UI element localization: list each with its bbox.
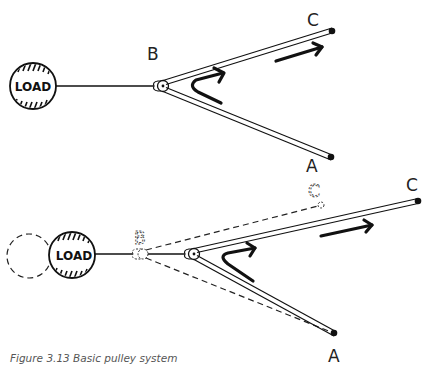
- pulley-b: [185, 249, 200, 260]
- end-label-a: A: [328, 346, 340, 366]
- load-weight: LOAD: [10, 63, 56, 110]
- u-turn-arrow-icon: [192, 68, 224, 103]
- previous-rope-to-c: [146, 206, 318, 250]
- previous-load-position: [7, 234, 51, 278]
- end-label-a: A: [306, 156, 318, 176]
- pulley-label-b: B: [147, 44, 159, 64]
- u-turn-arrow-icon: [223, 243, 255, 281]
- bottom-panel: LOAD B C C A: [7, 175, 421, 366]
- figure-caption: Figure 3.13 Basic pulley system: [10, 352, 177, 364]
- rope-to-a: [163, 88, 331, 161]
- pulley-b: [154, 81, 169, 92]
- end-point-a: [331, 330, 338, 337]
- previous-rope-to-a: [146, 258, 331, 332]
- top-panel: LOAD B C A: [10, 10, 335, 176]
- end-point-c: [415, 198, 422, 205]
- end-label-c: C: [307, 10, 319, 30]
- rope-to-c: [194, 199, 418, 253]
- rope-to-a: [194, 256, 334, 337]
- end-label-c: C: [406, 175, 418, 195]
- end-point-a: [328, 154, 335, 161]
- direction-arrow-icon: [276, 43, 322, 61]
- previous-pulley-label-b: B: [134, 228, 146, 248]
- previous-end-point-c: [318, 202, 324, 208]
- direction-arrow-icon: [321, 220, 372, 236]
- load-label: LOAD: [56, 249, 92, 263]
- previous-pulley-position: [132, 249, 148, 259]
- load-label: LOAD: [15, 80, 51, 94]
- rope-to-c: [163, 28, 332, 85]
- pulley-diagram: LOAD B C A: [0, 0, 430, 375]
- previous-end-label-c: C: [308, 181, 320, 201]
- load-weight: LOAD: [49, 232, 95, 279]
- end-point-c: [329, 28, 336, 35]
